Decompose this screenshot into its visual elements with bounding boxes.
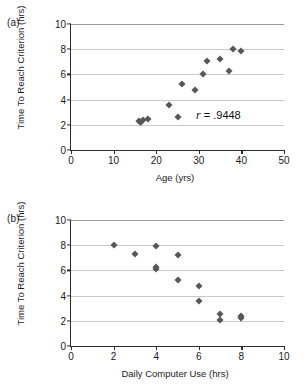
data-point (229, 45, 236, 52)
gridline-a-y2 (71, 125, 284, 126)
y-tick-label-a-6: 6 (60, 69, 66, 80)
panel-b-plot-area: 02468100246810 (70, 220, 284, 347)
y-tick-mark-b-8 (67, 245, 71, 246)
data-point (131, 250, 138, 257)
x-tick-mark-a-10 (114, 150, 115, 154)
x-tick-mark-b-8 (241, 346, 242, 350)
panel-a-plot-area: 024681001020304050 (70, 24, 284, 151)
x-tick-label-a-30: 30 (193, 155, 204, 166)
x-tick-mark-a-20 (156, 150, 157, 154)
x-tick-mark-a-40 (241, 150, 242, 154)
y-tick-mark-a-4 (67, 99, 71, 100)
y-tick-label-b-2: 2 (60, 315, 66, 326)
panel-b-y-axis-label: Time To Reach Criterion (hrs) (15, 184, 26, 344)
data-point (153, 243, 160, 250)
y-tick-label-b-0: 0 (60, 341, 66, 352)
x-tick-mark-a-0 (71, 150, 72, 154)
panel-a-y-axis-label: Time To Reach Criterion (hrs) (15, 0, 26, 148)
y-tick-mark-b-6 (67, 270, 71, 271)
y-tick-label-a-4: 4 (60, 94, 66, 105)
x-tick-mark-b-6 (199, 346, 200, 350)
data-point (225, 67, 232, 74)
data-point (174, 276, 181, 283)
data-point (191, 87, 198, 94)
y-tick-label-a-10: 10 (55, 19, 66, 30)
data-point (165, 101, 172, 108)
panel-a: (a) Time To Reach Criterion (hrs) Age (y… (0, 0, 304, 196)
x-tick-label-b-2: 2 (111, 351, 117, 362)
y-tick-label-a-2: 2 (60, 119, 66, 130)
panel-a-r-value: = .9448 (204, 109, 241, 121)
y-tick-mark-a-6 (67, 74, 71, 75)
x-tick-mark-a-50 (284, 150, 285, 154)
data-point (204, 57, 211, 64)
y-tick-mark-b-10 (67, 219, 71, 220)
gridline-a-y8 (71, 49, 284, 50)
x-tick-label-a-10: 10 (108, 155, 119, 166)
gridline-b-y8 (71, 245, 284, 246)
x-tick-mark-b-0 (71, 346, 72, 350)
gridline-a-y6 (71, 74, 284, 75)
x-tick-label-a-40: 40 (236, 155, 247, 166)
gridline-a-y4 (71, 100, 284, 101)
panel-a-x-axis-label: Age (yrs) (70, 172, 280, 183)
y-tick-label-b-4: 4 (60, 290, 66, 301)
panel-a-r-symbol: r (196, 108, 201, 122)
x-tick-label-a-20: 20 (151, 155, 162, 166)
y-tick-label-b-6: 6 (60, 265, 66, 276)
x-tick-mark-b-4 (156, 346, 157, 350)
y-tick-label-a-8: 8 (60, 44, 66, 55)
gridline-b-y4 (71, 296, 284, 297)
gridline-b-y2 (71, 321, 284, 322)
y-tick-label-a-0: 0 (60, 145, 66, 156)
data-point (174, 252, 181, 259)
x-tick-mark-b-10 (284, 346, 285, 350)
gridline-b-y10 (71, 220, 284, 221)
x-tick-mark-b-2 (114, 346, 115, 350)
y-tick-label-b-8: 8 (60, 240, 66, 251)
data-point (217, 56, 224, 63)
figure-scatterplots: (a) Time To Reach Criterion (hrs) Age (y… (0, 0, 304, 391)
y-tick-mark-a-10 (67, 23, 71, 24)
x-tick-label-a-0: 0 (68, 155, 74, 166)
panel-b-x-axis-label: Daily Computer Use (hrs) (70, 368, 280, 379)
data-point (110, 241, 117, 248)
gridline-b-y6 (71, 270, 284, 271)
data-point (174, 114, 181, 121)
x-tick-label-a-50: 50 (278, 155, 289, 166)
gridline-a-y10 (71, 24, 284, 25)
y-tick-mark-a-2 (67, 124, 71, 125)
y-tick-label-b-10: 10 (55, 215, 66, 226)
x-tick-label-b-6: 6 (196, 351, 202, 362)
x-tick-mark-a-30 (199, 150, 200, 154)
y-tick-mark-b-4 (67, 295, 71, 296)
data-point (195, 297, 202, 304)
data-point (195, 283, 202, 290)
data-point (200, 71, 207, 78)
y-tick-mark-a-8 (67, 49, 71, 50)
x-tick-label-b-10: 10 (278, 351, 289, 362)
panel-b: (b) Time To Reach Criterion (hrs) Daily … (0, 196, 304, 391)
panel-a-correlation-annotation: r = .9448 (196, 108, 241, 123)
x-tick-label-b-0: 0 (68, 351, 74, 362)
x-tick-label-b-4: 4 (153, 351, 159, 362)
data-point (178, 80, 185, 87)
x-tick-label-b-8: 8 (239, 351, 245, 362)
y-tick-mark-b-2 (67, 320, 71, 321)
data-point (217, 317, 224, 324)
